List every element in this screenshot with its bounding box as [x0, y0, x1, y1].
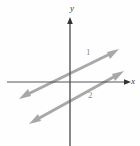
x-axis-label: x [131, 77, 135, 86]
line-2-segment [34, 74, 119, 121]
line-1-arrowhead-start [19, 89, 31, 99]
coordinate-plane-figure: y x 1 2 [0, 0, 140, 146]
line-1-label: 1 [86, 48, 91, 57]
line-2-label: 2 [88, 91, 93, 100]
line-2-arrowhead-end [112, 71, 124, 81]
line-2-graphic [29, 71, 124, 124]
y-axis-label: y [70, 4, 74, 13]
y-axis-arrowhead [67, 17, 73, 24]
axes-and-lines-canvas [0, 0, 140, 146]
line-1-arrowhead-end [107, 49, 119, 59]
line-2-arrowhead-start [29, 114, 41, 124]
x-axis-graphic [7, 79, 131, 85]
line-1-segment [24, 52, 114, 96]
line-1-graphic [19, 49, 119, 99]
x-axis-arrowhead [124, 79, 131, 85]
